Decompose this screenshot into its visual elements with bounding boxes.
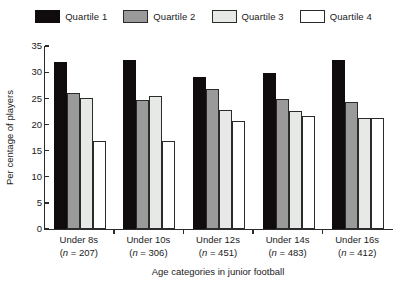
legend-label: Quartile 4 bbox=[330, 11, 372, 22]
x-axis-category-label: Under 12s(n = 451) bbox=[183, 233, 253, 259]
bar-group bbox=[184, 46, 254, 229]
legend-swatch-icon bbox=[123, 10, 148, 23]
y-axis-tick-label: 15 bbox=[31, 146, 45, 156]
y-axis-tick-label: 10 bbox=[31, 172, 45, 182]
legend-swatch-icon bbox=[35, 10, 60, 23]
legend-entry: Quartile 4 bbox=[300, 10, 372, 23]
category-sample-size: (n = 207) bbox=[44, 246, 114, 259]
bar bbox=[358, 118, 371, 229]
x-axis-category-label: Under 10s(n = 306) bbox=[114, 233, 184, 259]
x-axis-category-label: Under 14s(n = 483) bbox=[253, 233, 323, 259]
legend-label: Quartile 3 bbox=[242, 11, 284, 22]
bar bbox=[345, 102, 358, 229]
x-axis-category-label: Under 16s(n = 412) bbox=[322, 233, 392, 259]
category-sample-size: (n = 451) bbox=[183, 246, 253, 259]
bar bbox=[289, 111, 302, 229]
category-sample-size: (n = 306) bbox=[114, 246, 184, 259]
legend-entry: Quartile 2 bbox=[123, 10, 195, 23]
x-axis-category-labels: Under 8s(n = 207)Under 10s(n = 306)Under… bbox=[44, 233, 392, 259]
y-axis-tick-label: 20 bbox=[31, 120, 45, 130]
legend-swatch-icon bbox=[212, 10, 237, 23]
bar-group bbox=[323, 46, 393, 229]
y-axis-tick-label: 30 bbox=[31, 67, 45, 77]
legend-label: Quartile 2 bbox=[153, 11, 195, 22]
category-name: Under 8s bbox=[60, 234, 99, 245]
bar bbox=[232, 121, 245, 229]
bar bbox=[263, 73, 276, 229]
bar bbox=[302, 116, 315, 229]
x-axis-category-label: Under 8s(n = 207) bbox=[44, 233, 114, 259]
bar-group bbox=[115, 46, 185, 229]
bar bbox=[54, 62, 67, 229]
category-sample-size: (n = 483) bbox=[253, 246, 323, 259]
bar bbox=[206, 89, 219, 229]
legend-entry: Quartile 3 bbox=[212, 10, 284, 23]
chart-legend: Quartile 1Quartile 2Quartile 3Quartile 4 bbox=[0, 6, 407, 26]
bar bbox=[219, 110, 232, 229]
bar-groups bbox=[45, 46, 393, 229]
bar bbox=[162, 141, 175, 229]
bar bbox=[67, 93, 80, 229]
legend-swatch-icon bbox=[300, 10, 325, 23]
legend-entry: Quartile 1 bbox=[35, 10, 107, 23]
bar-group bbox=[45, 46, 115, 229]
category-sample-size: (n = 412) bbox=[322, 246, 392, 259]
category-name: Under 12s bbox=[196, 234, 240, 245]
bar bbox=[149, 96, 162, 229]
bar-chart-figure: Quartile 1Quartile 2Quartile 3Quartile 4… bbox=[0, 0, 407, 288]
bar bbox=[93, 141, 106, 229]
bar-group bbox=[254, 46, 324, 229]
bar bbox=[371, 118, 384, 229]
y-axis-tick-label: 5 bbox=[37, 198, 45, 208]
x-axis-title: Age categories in junior football bbox=[44, 266, 392, 277]
bar bbox=[276, 99, 289, 229]
bar bbox=[80, 98, 93, 229]
category-name: Under 14s bbox=[266, 234, 310, 245]
category-name: Under 10s bbox=[126, 234, 170, 245]
bar bbox=[193, 77, 206, 229]
legend-label: Quartile 1 bbox=[65, 11, 107, 22]
y-axis-tick-label: 35 bbox=[31, 41, 45, 51]
bar bbox=[123, 60, 136, 229]
category-name: Under 16s bbox=[335, 234, 379, 245]
bar bbox=[332, 60, 345, 229]
y-axis-tick-label: 25 bbox=[31, 94, 45, 104]
y-axis-title: Per centage of players bbox=[2, 46, 16, 229]
bar bbox=[136, 100, 149, 229]
plot-area: 05101520253035 bbox=[44, 46, 393, 230]
